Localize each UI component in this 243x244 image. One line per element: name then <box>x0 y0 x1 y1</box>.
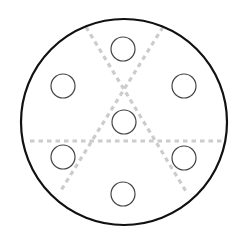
hole-circle-bottom <box>111 182 135 206</box>
hole-circle-upper-left <box>51 74 75 98</box>
hole-circle-upper-right <box>172 74 196 98</box>
dashed-line-diagonal-down-right <box>86 27 187 193</box>
hole-circle-lower-right <box>172 146 196 170</box>
hole-circle-top <box>111 37 135 61</box>
hole-circle-center <box>112 110 136 134</box>
hole-circle-lower-left <box>51 145 75 169</box>
circle-diagram <box>0 0 243 244</box>
